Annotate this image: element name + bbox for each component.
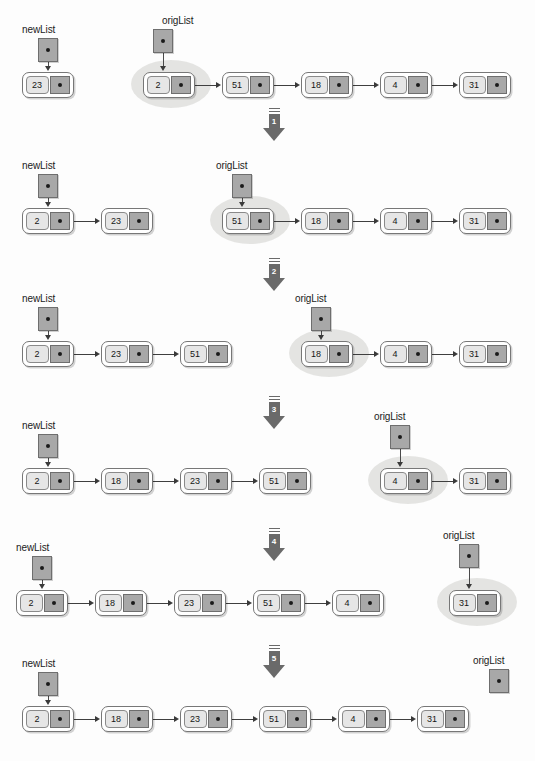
step-arrow-5: 5 (260, 645, 288, 678)
node-data-cell: 31 (453, 594, 476, 612)
list-node[interactable]: 2 (22, 468, 74, 494)
step-arrow-2: 2 (260, 258, 288, 291)
node-next-pointer-cell (129, 472, 149, 490)
list-node[interactable]: 31 (449, 590, 501, 616)
node-next-pointer-cell (329, 345, 349, 363)
list-node[interactable]: 51 (222, 208, 274, 234)
step-arrow-number: 4 (269, 535, 280, 548)
orig_list-pointer-link (400, 449, 401, 463)
list-node[interactable]: 31 (459, 468, 511, 494)
next-pointer-arrowhead (374, 351, 379, 357)
list-node[interactable]: 18 (301, 72, 353, 98)
next-pointer-arrowhead (295, 82, 300, 88)
orig_list-pointer-box[interactable] (489, 669, 509, 693)
next-pointer-arrowhead (332, 716, 337, 722)
list-node[interactable]: 23 (180, 706, 232, 732)
node-next-pointer-cell (408, 472, 428, 490)
new_list-pointer-box[interactable] (38, 307, 58, 331)
new_list-pointer-box[interactable] (38, 434, 58, 458)
orig_list-pointer-arrowhead (318, 335, 324, 340)
list-node[interactable]: 51 (222, 72, 274, 98)
list-node[interactable]: 23 (22, 72, 74, 98)
list-node[interactable]: 31 (459, 341, 511, 367)
node-data-cell: 23 (105, 345, 128, 363)
list-node[interactable]: 31 (459, 72, 511, 98)
node-data-cell: 2 (147, 76, 170, 94)
next-pointer-arrowhead (174, 478, 179, 484)
list-node[interactable]: 4 (380, 341, 432, 367)
next-pointer-arrowhead (453, 82, 458, 88)
orig_list-pointer-box[interactable] (153, 29, 173, 53)
node-next-pointer-cell (487, 472, 507, 490)
list-node[interactable]: 2 (143, 72, 195, 98)
list-node[interactable]: 18 (101, 706, 153, 732)
list-node[interactable]: 18 (95, 590, 147, 616)
orig_list-pointer-arrowhead (397, 462, 403, 467)
node-next-pointer-cell (129, 212, 149, 230)
orig_list-pointer-box[interactable] (459, 544, 479, 568)
list-node[interactable]: 4 (380, 72, 432, 98)
list-node[interactable]: 4 (338, 706, 390, 732)
list-node[interactable]: 23 (174, 590, 226, 616)
node-data-cell: 51 (257, 594, 280, 612)
node-next-pointer-cell (287, 472, 307, 490)
node-next-pointer-cell (477, 594, 497, 612)
list-node[interactable]: 4 (380, 468, 432, 494)
list-node[interactable]: 31 (417, 706, 469, 732)
new_list-pointer-box[interactable] (38, 672, 58, 696)
node-data-cell: 18 (305, 76, 328, 94)
next-pointer-arrowhead (89, 600, 94, 606)
list-node[interactable]: 31 (459, 208, 511, 234)
node-next-pointer-cell (287, 710, 307, 728)
orig_list-pointer-label: origList (216, 160, 247, 171)
list-node[interactable]: 23 (101, 341, 153, 367)
node-next-pointer-cell (445, 710, 465, 728)
node-data-cell: 4 (384, 76, 407, 94)
step-arrow-number: 3 (269, 403, 280, 416)
list-node[interactable]: 51 (180, 341, 232, 367)
list-node[interactable]: 23 (180, 468, 232, 494)
node-data-cell: 18 (105, 710, 128, 728)
orig_list-pointer-box[interactable] (390, 425, 410, 449)
node-data-cell: 51 (263, 472, 286, 490)
list-node[interactable]: 18 (301, 341, 353, 367)
node-next-pointer-cell (487, 345, 507, 363)
list-node[interactable]: 51 (259, 468, 311, 494)
node-data-cell: 51 (226, 76, 249, 94)
list-node[interactable]: 18 (301, 208, 353, 234)
new_list-pointer-label: newList (16, 542, 49, 553)
node-data-cell: 23 (105, 212, 128, 230)
list-node[interactable]: 2 (22, 341, 74, 367)
list-node[interactable]: 51 (253, 590, 305, 616)
node-data-cell: 18 (305, 345, 328, 363)
orig_list-pointer-arrowhead (466, 584, 472, 589)
node-data-cell: 23 (184, 472, 207, 490)
new_list-pointer-box[interactable] (38, 174, 58, 198)
new_list-pointer-label: newList (22, 160, 55, 171)
list-node[interactable]: 2 (16, 590, 68, 616)
new_list-pointer-box[interactable] (38, 38, 58, 62)
node-data-cell: 51 (226, 212, 249, 230)
node-next-pointer-cell (408, 345, 428, 363)
orig_list-pointer-box[interactable] (232, 174, 252, 198)
node-data-cell: 31 (421, 710, 444, 728)
new_list-pointer-box[interactable] (32, 556, 52, 580)
node-data-cell: 18 (105, 472, 128, 490)
node-next-pointer-cell (50, 345, 70, 363)
orig_list-pointer-label: origList (443, 530, 474, 541)
list-node[interactable]: 23 (101, 208, 153, 234)
node-next-pointer-cell (208, 710, 228, 728)
list-node[interactable]: 51 (259, 706, 311, 732)
list-node[interactable]: 2 (22, 208, 74, 234)
orig_list-pointer-link (469, 568, 470, 585)
orig_list-pointer-box[interactable] (311, 307, 331, 331)
list-node[interactable]: 4 (380, 208, 432, 234)
list-node[interactable]: 4 (332, 590, 384, 616)
orig_list-pointer-arrowhead (160, 66, 166, 71)
next-pointer-arrowhead (95, 478, 100, 484)
node-next-pointer-cell (50, 76, 70, 94)
step-arrow-number: 2 (269, 265, 280, 278)
node-data-cell: 18 (305, 212, 328, 230)
list-node[interactable]: 18 (101, 468, 153, 494)
list-node[interactable]: 2 (22, 706, 74, 732)
